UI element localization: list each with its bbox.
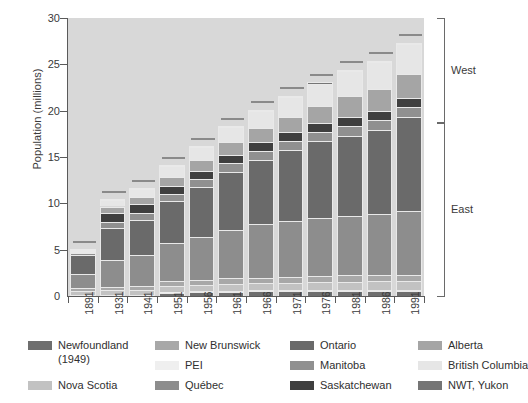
- bar-segment-qu-bec[interactable]: [189, 237, 215, 280]
- bar-segment-new-brunswick[interactable]: [367, 275, 393, 282]
- bar-segment-ontario[interactable]: [159, 201, 185, 244]
- bar-segment-qu-bec[interactable]: [307, 218, 333, 276]
- bar-segment-saskatchewan[interactable]: [337, 117, 363, 126]
- bar-segment-manitoba[interactable]: [70, 253, 96, 254]
- x-tick-label-1981: 1981: [350, 283, 362, 323]
- bar-segment-nwt-yukon[interactable]: [70, 249, 96, 250]
- bar-segment-saskatchewan[interactable]: [307, 123, 333, 132]
- bar-segment-qu-bec[interactable]: [337, 216, 363, 276]
- bar-segment-ontario[interactable]: [218, 172, 244, 230]
- bar-1976[interactable]: [307, 18, 333, 296]
- bar-segment-manitoba[interactable]: [307, 132, 333, 141]
- bar-segment-qu-bec[interactable]: [129, 255, 155, 286]
- bar-1986[interactable]: [367, 18, 393, 296]
- bar-segment-manitoba[interactable]: [129, 213, 155, 220]
- bar-segment-british-columbia[interactable]: [100, 200, 126, 206]
- bar-segment-nwt-yukon[interactable]: [248, 110, 274, 111]
- bar-segment-ontario[interactable]: [189, 187, 215, 237]
- bar-segment-nwt-yukon[interactable]: [307, 82, 333, 83]
- bar-segment-alberta[interactable]: [248, 128, 274, 142]
- bar-1931[interactable]: [100, 18, 126, 296]
- bar-segment-manitoba[interactable]: [159, 194, 185, 201]
- bar-segment-ontario[interactable]: [100, 228, 126, 260]
- bar-segment-nwt-yukon[interactable]: [159, 165, 185, 166]
- bar-1956[interactable]: [189, 18, 215, 296]
- bar-segment-alberta[interactable]: [367, 89, 393, 111]
- region-label-west: West: [451, 64, 476, 76]
- bar-segment-qu-bec[interactable]: [248, 224, 274, 278]
- bar-segment-saskatchewan[interactable]: [159, 186, 185, 194]
- bar-segment-alberta[interactable]: [396, 74, 422, 98]
- bar-segment-qu-bec[interactable]: [159, 243, 185, 281]
- bar-segment-saskatchewan[interactable]: [100, 213, 126, 222]
- bar-segment-saskatchewan[interactable]: [367, 111, 393, 120]
- bar-segment-british-columbia[interactable]: [248, 111, 274, 128]
- x-tick-label-1951: 1951: [172, 283, 184, 323]
- bar-segment-ontario[interactable]: [367, 130, 393, 214]
- bar-segment-saskatchewan[interactable]: [278, 132, 304, 141]
- bar-1971[interactable]: [278, 18, 304, 296]
- bar-segment-british-columbia[interactable]: [278, 97, 304, 117]
- bar-segment-alberta[interactable]: [100, 207, 126, 214]
- bar-segment-alberta[interactable]: [337, 96, 363, 117]
- bar-segment-ontario[interactable]: [70, 255, 96, 275]
- bar-1941[interactable]: [129, 18, 155, 296]
- bar-segment-manitoba[interactable]: [278, 141, 304, 150]
- bar-segment-british-columbia[interactable]: [189, 147, 215, 160]
- bar-segment-manitoba[interactable]: [367, 120, 393, 130]
- bar-segment-nwt-yukon[interactable]: [396, 43, 422, 44]
- bar-1891[interactable]: [70, 18, 96, 296]
- bar-segment-ontario[interactable]: [129, 220, 155, 255]
- bar-segment-manitoba[interactable]: [337, 126, 363, 136]
- bar-segment-qu-bec[interactable]: [367, 214, 393, 275]
- bar-segment-saskatchewan[interactable]: [129, 204, 155, 212]
- bar-segment-manitoba[interactable]: [218, 163, 244, 172]
- bar-segment-qu-bec[interactable]: [218, 230, 244, 279]
- y-tick-mark: [60, 18, 67, 19]
- bar-segment-british-columbia[interactable]: [218, 127, 244, 142]
- bar-segment-british-columbia[interactable]: [159, 166, 185, 177]
- bar-segment-alberta[interactable]: [307, 106, 333, 123]
- bar-segment-manitoba[interactable]: [248, 151, 274, 160]
- bar-segment-ontario[interactable]: [248, 160, 274, 224]
- bar-segment-british-columbia[interactable]: [337, 71, 363, 96]
- bar-segment-nwt-yukon[interactable]: [100, 199, 126, 200]
- bar-segment-nwt-yukon[interactable]: [129, 188, 155, 189]
- bar-1991[interactable]: [396, 18, 422, 296]
- bar-1961[interactable]: [218, 18, 244, 296]
- bar-segment-alberta[interactable]: [218, 142, 244, 154]
- bar-1966[interactable]: [248, 18, 274, 296]
- bar-segment-nwt-yukon[interactable]: [278, 96, 304, 97]
- bar-segment-new-brunswick[interactable]: [307, 276, 333, 282]
- bar-segment-saskatchewan[interactable]: [396, 98, 422, 107]
- bar-segment-alberta[interactable]: [278, 117, 304, 132]
- bar-segment-qu-bec[interactable]: [396, 211, 422, 275]
- bar-segment-saskatchewan[interactable]: [218, 155, 244, 164]
- bar-segment-manitoba[interactable]: [396, 107, 422, 117]
- bar-segment-ontario[interactable]: [278, 150, 304, 221]
- bar-segment-british-columbia[interactable]: [396, 44, 422, 74]
- bar-segment-new-brunswick[interactable]: [396, 275, 422, 282]
- bar-segment-manitoba[interactable]: [189, 179, 215, 187]
- bar-segment-alberta[interactable]: [159, 177, 185, 186]
- bar-segment-new-brunswick[interactable]: [278, 277, 304, 283]
- bar-segment-manitoba[interactable]: [100, 222, 126, 228]
- bar-segment-saskatchewan[interactable]: [248, 142, 274, 151]
- bar-segment-ontario[interactable]: [307, 141, 333, 218]
- bar-segment-qu-bec[interactable]: [278, 221, 304, 277]
- bar-segment-nwt-yukon[interactable]: [367, 61, 393, 62]
- bar-segment-british-columbia[interactable]: [129, 189, 155, 197]
- bar-segment-ontario[interactable]: [337, 136, 363, 216]
- bar-segment-nwt-yukon[interactable]: [337, 70, 363, 71]
- bar-segment-british-columbia[interactable]: [307, 84, 333, 107]
- bar-total-cap: [310, 74, 333, 76]
- bar-segment-new-brunswick[interactable]: [337, 275, 363, 281]
- bar-segment-nwt-yukon[interactable]: [218, 126, 244, 127]
- bar-1981[interactable]: [337, 18, 363, 296]
- bar-segment-ontario[interactable]: [396, 117, 422, 210]
- bar-segment-alberta[interactable]: [189, 160, 215, 170]
- bar-segment-british-columbia[interactable]: [367, 62, 393, 89]
- bar-segment-alberta[interactable]: [129, 197, 155, 204]
- bar-segment-saskatchewan[interactable]: [189, 171, 215, 179]
- bar-segment-nwt-yukon[interactable]: [189, 146, 215, 147]
